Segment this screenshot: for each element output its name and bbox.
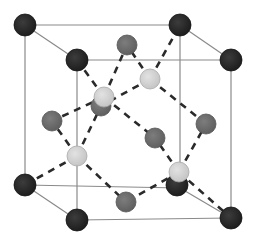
cube-edge-back [25,185,180,188]
corner-atom [169,14,191,36]
tetra-atom [94,87,114,107]
corner-atom [66,49,88,71]
corner-atom [14,14,36,36]
cube-edge-front [77,218,231,220]
face-atom [145,128,165,148]
corner-atom [14,174,36,196]
unit-cell-figure [0,0,258,240]
face-atom [42,111,62,131]
face-atom [117,35,137,55]
crystal-unit-cell-diagram [0,0,258,240]
face-atom [196,114,216,134]
bond-dashed [150,79,206,124]
tetra-atom [169,162,189,182]
corner-atom [220,49,242,71]
corner-atom [220,207,242,229]
corner-atom [66,209,88,231]
face-atom [116,192,136,212]
tetra-atom [67,146,87,166]
tetra-atom [140,69,160,89]
